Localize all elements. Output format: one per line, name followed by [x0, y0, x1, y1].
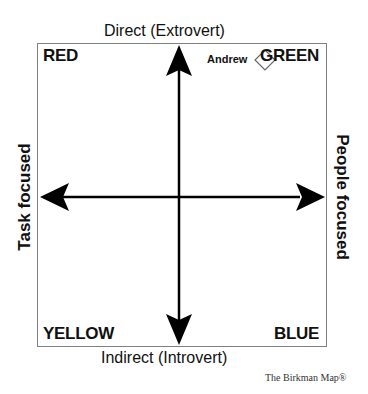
arrow-right-icon: [296, 183, 325, 211]
quadrant-frame: [38, 44, 327, 347]
birkman-map-diagram: Direct (Extrovert) Indirect (Introvert) …: [0, 0, 368, 394]
marker-label-andrew: Andrew: [207, 53, 247, 65]
axis-title-right: People focused: [332, 134, 352, 260]
quadrant-label-yellow: YELLOW: [43, 324, 114, 344]
axis-title-top: Direct (Extrovert): [104, 22, 225, 40]
quadrant-label-red: RED: [43, 46, 78, 66]
quadrant-label-blue: BLUE: [274, 324, 319, 344]
axis-title-bottom: Indirect (Introvert): [101, 349, 227, 367]
quadrant-label-green: GREEN: [260, 46, 319, 66]
axis-title-left: Task focused: [15, 143, 35, 250]
footer-caption: The Birkman Map®: [265, 372, 346, 383]
